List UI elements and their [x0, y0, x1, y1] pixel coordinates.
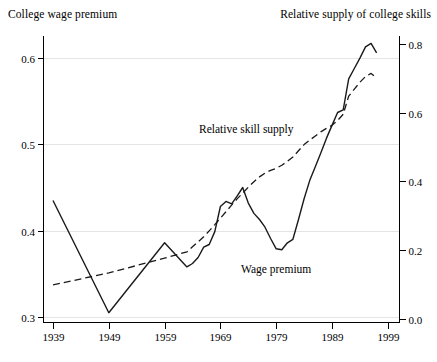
- right-axis-ticks: 0.00.20.40.60.8: [400, 39, 423, 326]
- x-axis-ticks: 1939194919591969197919891999: [43, 323, 401, 343]
- svg-text:0.0: 0.0: [409, 314, 423, 326]
- series-line-relative-skill-supply: [53, 73, 377, 285]
- svg-text:1999: 1999: [378, 331, 401, 343]
- svg-text:0.3: 0.3: [21, 312, 35, 324]
- svg-text:0.5: 0.5: [21, 139, 35, 151]
- chart-figure: College wage premium Relative supply of …: [0, 0, 437, 362]
- chart-canvas: 0.30.40.50.60.00.20.40.60.81939194919591…: [0, 0, 437, 362]
- svg-text:1989: 1989: [322, 331, 345, 343]
- series-label-skill-supply: Relative skill supply: [199, 123, 294, 135]
- svg-text:1969: 1969: [210, 331, 233, 343]
- svg-text:1979: 1979: [266, 331, 289, 343]
- left-axis-ticks: 0.30.40.50.6: [21, 53, 43, 324]
- svg-text:0.8: 0.8: [409, 39, 423, 51]
- series-line-wage-premium: [53, 43, 377, 312]
- svg-text:1939: 1939: [43, 331, 66, 343]
- svg-text:0.4: 0.4: [21, 226, 35, 238]
- svg-text:1949: 1949: [99, 331, 122, 343]
- svg-text:0.2: 0.2: [409, 245, 423, 257]
- axes: [43, 36, 400, 323]
- svg-text:0.4: 0.4: [409, 176, 423, 188]
- svg-text:0.6: 0.6: [21, 53, 35, 65]
- svg-text:1959: 1959: [155, 331, 178, 343]
- series-label-wage-premium: Wage premium: [241, 263, 311, 275]
- svg-text:0.6: 0.6: [409, 108, 423, 120]
